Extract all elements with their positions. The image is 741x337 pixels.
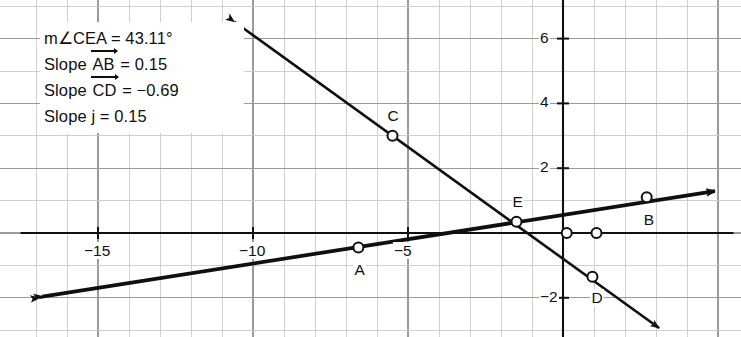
slope-ab-line: Slope AB = 0.15 bbox=[44, 51, 240, 77]
line-j-name: j bbox=[91, 107, 95, 125]
point-marker[interactable] bbox=[591, 228, 601, 238]
line-j bbox=[42, 191, 715, 296]
vector-arrow-ab-icon bbox=[91, 50, 116, 52]
figure-canvas: m∠CEA = 43.11° Slope AB = 0.15 Slope CD … bbox=[0, 0, 741, 337]
segment-ab-letters: AB bbox=[92, 55, 114, 73]
y-axis-label-2: 2 bbox=[539, 158, 550, 175]
point-C[interactable] bbox=[388, 131, 398, 141]
slope-ab-value: 0.15 bbox=[135, 55, 168, 73]
y-axis-label--2: −2 bbox=[539, 288, 559, 305]
slope-cd-equals: = bbox=[122, 81, 132, 99]
point-label-C: C bbox=[387, 107, 400, 124]
slope-cd-prefix: Slope bbox=[44, 81, 87, 99]
slope-cd-value: −0.69 bbox=[137, 81, 179, 99]
y-axis-label-6: 6 bbox=[539, 29, 550, 46]
slope-ab-equals: = bbox=[120, 55, 130, 73]
slope-j-line: Slope j = 0.15 bbox=[44, 103, 240, 129]
angle-measure-line: m∠CEA = 43.11° bbox=[44, 25, 240, 51]
point-label-E: E bbox=[512, 193, 524, 210]
vector-arrow-cd-icon bbox=[91, 76, 118, 78]
point-D[interactable] bbox=[587, 272, 597, 282]
slope-cd-line: Slope CD = −0.69 bbox=[44, 77, 240, 103]
y-axis-label-4: 4 bbox=[539, 93, 550, 110]
point-A[interactable] bbox=[353, 243, 363, 253]
slope-j-equals: = bbox=[100, 107, 110, 125]
slope-ab-prefix: Slope bbox=[44, 55, 87, 73]
segment-cd-letters: CD bbox=[92, 81, 116, 99]
point-label-B: B bbox=[643, 211, 655, 228]
line-CD bbox=[234, 22, 659, 328]
segment-ab-name: AB bbox=[91, 51, 115, 77]
x-axis-label--5: −5 bbox=[393, 242, 413, 259]
point-marker[interactable] bbox=[562, 228, 572, 238]
slope-j-prefix: Slope bbox=[44, 107, 87, 125]
point-E[interactable] bbox=[512, 217, 522, 227]
angle-measure-text: m∠CEA = 43.11° bbox=[44, 29, 173, 47]
slope-j-value: 0.15 bbox=[114, 107, 147, 125]
measurement-panel: m∠CEA = 43.11° Slope AB = 0.15 Slope CD … bbox=[40, 22, 244, 133]
point-label-A: A bbox=[353, 261, 365, 278]
x-axis-label--15: −15 bbox=[83, 242, 111, 259]
x-axis-label--10: −10 bbox=[238, 242, 266, 259]
segment-cd-name: CD bbox=[91, 77, 117, 103]
point-B[interactable] bbox=[642, 192, 652, 202]
point-label-D: D bbox=[590, 289, 603, 306]
